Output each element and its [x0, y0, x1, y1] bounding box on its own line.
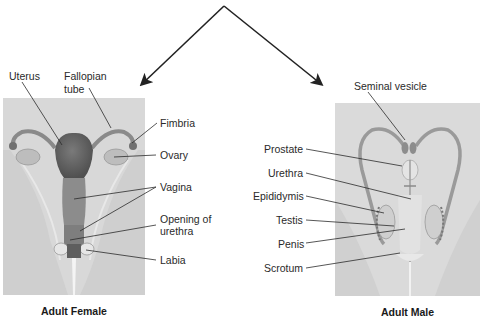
label-scrotum: Scrotum [264, 262, 303, 274]
label-opening-of-urethra-line1: Opening of [160, 213, 211, 225]
label-uterus: Uterus [9, 70, 40, 82]
label-labia: Labia [160, 254, 186, 266]
female-illustration [3, 98, 145, 295]
label-prostate: Prostate [264, 143, 303, 155]
label-urethra: Urethra [268, 167, 303, 179]
branch-arrows [142, 6, 321, 84]
caption-adult-female: Adult Female [41, 305, 107, 317]
label-testis: Testis [276, 214, 303, 226]
reproductive-anatomy-diagram: Uterus Fallopian tube Fimbria Ovary Vagi… [0, 0, 483, 318]
label-fimbria: Fimbria [160, 117, 195, 129]
caption-adult-male: Adult Male [381, 306, 434, 318]
label-ovary: Ovary [160, 149, 188, 161]
label-epididymis: Epididymis [253, 190, 304, 202]
label-penis: Penis [278, 238, 304, 250]
diagram-graphics [0, 0, 483, 318]
label-fallopian-tube-line1: Fallopian [64, 70, 107, 82]
label-opening-of-urethra-line2: urethra [160, 225, 193, 237]
label-seminal-vesicle: Seminal vesicle [354, 80, 427, 92]
label-fallopian-tube-line2: tube [64, 83, 84, 95]
male-illustration [335, 103, 480, 296]
label-vagina: Vagina [160, 181, 192, 193]
